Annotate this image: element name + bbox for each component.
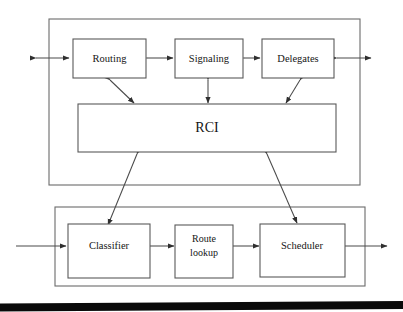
connector-rci-scheduler: [267, 154, 297, 223]
block-route-lookup-label-line1: Route: [192, 233, 216, 244]
block-rci-label: RCI: [195, 120, 219, 135]
connector-delegates-rci: [286, 80, 300, 103]
block-signaling-label: Signaling: [189, 53, 230, 64]
block-routing-label: Routing: [93, 53, 128, 64]
block-classifier-label: Classifier: [89, 240, 130, 251]
connector-routing-rci: [110, 80, 134, 103]
diagram-canvas: Routing Signaling Delegates RCI Classifi…: [0, 0, 403, 312]
block-scheduler-label: Scheduler: [281, 240, 323, 251]
block-route-lookup-label-line2: lookup: [190, 247, 218, 258]
architecture-diagram: Routing Signaling Delegates RCI Classifi…: [0, 0, 403, 312]
block-delegates-label: Delegates: [277, 53, 318, 64]
connector-rci-classifier: [108, 154, 137, 225]
bottom-rule: [0, 301, 403, 312]
